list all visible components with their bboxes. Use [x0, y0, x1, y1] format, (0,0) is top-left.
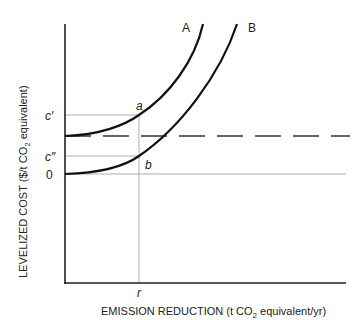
curve-b-label: B — [248, 21, 256, 35]
tick-c-prime: c′ — [45, 109, 54, 123]
curve-b — [65, 24, 237, 174]
curve-a-label: A — [182, 21, 190, 35]
point-a-label: a — [136, 99, 143, 113]
x-axis-label: EMISSION REDUCTION (t CO2 equivalent/yr) — [101, 305, 326, 320]
cost-curve-diagram: A B a b c′ c″ 0 r EMISSION REDUCTION (t … — [0, 0, 363, 320]
curve-a — [65, 24, 203, 136]
tick-zero: 0 — [46, 168, 53, 182]
point-b-label: b — [145, 158, 152, 172]
tick-c-double-prime: c″ — [45, 150, 56, 164]
y-axis-label: LEVELIZED COST ($/t CO2 equivalent) — [17, 85, 32, 278]
tick-r: r — [137, 286, 142, 300]
